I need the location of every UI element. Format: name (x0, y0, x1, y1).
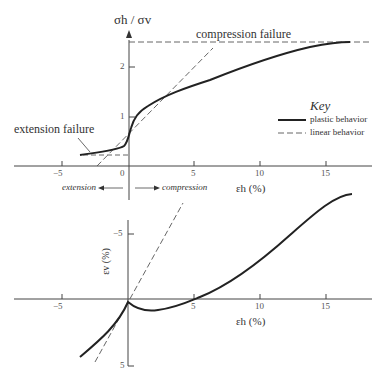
right-arrow-icon (154, 186, 160, 191)
bottom-x-tick-15: 15 (321, 301, 330, 311)
top-x-tick-5: 5 (191, 168, 196, 178)
bottom-axes (14, 220, 372, 366)
extension-failure-pointer (78, 138, 90, 152)
extension-direction-label: extension (62, 182, 96, 192)
top-y-tick-1: 1 (120, 111, 125, 121)
key-title: Key (310, 98, 330, 114)
compression-direction-label: compression (162, 182, 207, 192)
bottom-x-tick-10: 10 (255, 301, 264, 311)
plots-canvas (0, 0, 386, 384)
bottom-y-tick--5: −5 (113, 228, 123, 238)
top-x-tick-15: 15 (321, 168, 330, 178)
top-x-tick-0: 0 (120, 168, 125, 178)
top-y-axis-label: σh / σv (114, 12, 151, 28)
top-x-tick-10: 10 (255, 168, 264, 178)
bottom-y-tick-5: 5 (120, 360, 125, 370)
bottom-linear-curve (95, 203, 183, 362)
bottom-x-tick--5: −5 (53, 301, 63, 311)
bottom-x-axis-label: εh (%) (236, 315, 265, 327)
top-y-tick-2: 2 (120, 61, 125, 71)
bottom-x-tick-5: 5 (191, 301, 196, 311)
left-arrow-icon (98, 186, 104, 191)
key-linear-label: linear behavior (310, 127, 364, 137)
extension-failure-label: extension failure (14, 122, 94, 137)
y-axis-arrow-icon (126, 30, 132, 38)
top-x-axis-label: εh (%) (236, 182, 265, 194)
bottom-plastic-curve (80, 194, 352, 357)
top-x-tick--5: −5 (53, 168, 63, 178)
compression-failure-label: compression failure (196, 27, 291, 42)
key-plastic-label: plastic behavior (310, 114, 367, 124)
bottom-y-axis-label: εv (%) (100, 248, 111, 275)
diagram: σh / σv compression failure extension fa… (0, 0, 386, 384)
